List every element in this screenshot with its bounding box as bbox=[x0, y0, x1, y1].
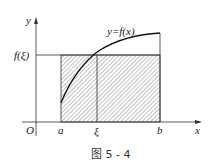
f-xi-label: f(ξ) bbox=[14, 49, 29, 62]
y-axis-label: y bbox=[25, 14, 31, 26]
tick-b-label: b bbox=[157, 124, 163, 136]
tick-a-label: a bbox=[58, 124, 64, 136]
figure-caption: 图 5 - 4 bbox=[91, 148, 130, 161]
mean-value-diagram: y x O f(ξ) y=f(x) a ξ b 图 5 - 4 bbox=[0, 0, 212, 168]
curve-label: y=f(x) bbox=[106, 25, 135, 38]
x-axis-label: x bbox=[194, 124, 200, 136]
hatched-rectangle bbox=[61, 55, 160, 122]
tick-xi-label: ξ bbox=[94, 125, 99, 138]
origin-label: O bbox=[26, 124, 34, 136]
y-axis-arrow-icon bbox=[34, 17, 38, 24]
